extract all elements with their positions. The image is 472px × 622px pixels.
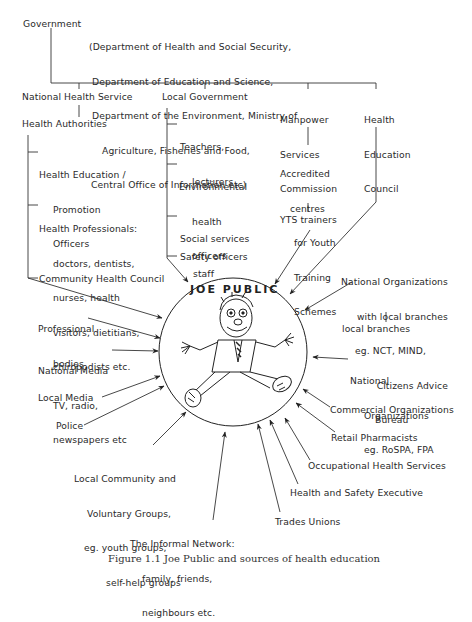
label-line: for Youth [280,237,336,249]
label-line: staff [180,268,249,280]
label-line: Health Education / [39,169,126,181]
occupational-health-services: Occupational Health Services [308,460,446,472]
government-label: Government [23,18,81,30]
label-line: family, friends, [130,573,235,585]
figure-caption: Figure 1.1 Joe Public and sources of hea… [108,553,380,564]
label-line: Professional [38,323,94,335]
safety-officers: Safety officers [180,251,248,263]
label-line: Education [364,149,411,161]
label-line: Accredited [280,168,336,180]
label-line: National [350,375,434,387]
label-line: National Media [38,365,127,377]
label-line: Council [364,183,411,195]
label-line: eg. RoSPA, FPA [350,444,434,456]
label-line: neighbours etc. [130,607,235,619]
label-line: National Organizations [341,276,448,288]
nhs-label: National Health Service [22,91,133,103]
commercial-organizations: Commercial Organizations [330,404,454,416]
label-line: newspapers etc [38,434,127,446]
informal-network: The Informal Network: family, friends, n… [130,515,235,622]
accredited-yts-centres: Accredited centres for Youth Training Sc… [280,145,336,329]
retail-pharmacists: Retail Pharmacists [331,432,418,444]
label-line: doctors, dentists, [39,258,140,270]
department-line: Department of Education and Science, [89,76,297,88]
health-and-safety-executive: Health and Safety Executive [290,487,423,499]
yts-trainers: YTS trainers [280,214,337,226]
label-line: with local branches [341,311,448,323]
community-health-council: Community Health Council [39,273,164,285]
label-line: Environmental [179,181,247,193]
joe-public-title: JOE PUBLIC [190,283,279,296]
label-line: Health [364,114,411,126]
label-line: Manpower [280,114,337,126]
label-line: Teachers, [180,141,233,153]
label-line: Local Community and [74,473,181,485]
local-government-label: Local Government [162,91,248,103]
local-media: Local Media [38,392,93,404]
health-authorities-label: Health Authorities [22,118,107,130]
trades-unions: Trades Unions [275,516,341,528]
label-line: centres [280,203,336,215]
police: Police [56,420,83,432]
label-line: Social services [180,233,249,245]
department-line: (Department of Health and Social Securit… [89,41,297,53]
health-education-council: Health Education Council [364,91,411,206]
label-line: The Informal Network: [130,538,235,550]
label-line: Health Professionals: [39,223,140,235]
local-branches: local branches [342,323,410,335]
label-line: Schemes [280,306,336,318]
joe-public-figure-icon [181,292,294,407]
label-line: Training [280,272,336,284]
